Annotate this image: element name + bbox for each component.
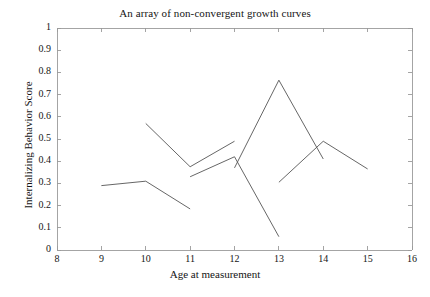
x-tick-label: 12 [224, 253, 246, 264]
y-tick-label: 0.4 [21, 154, 51, 165]
data-line-curve-4 [235, 80, 324, 168]
y-tick-label: 0.8 [21, 65, 51, 76]
y-tick-label: 1 [21, 21, 51, 32]
y-tick-label: 0.6 [21, 110, 51, 121]
x-tick-label: 8 [46, 253, 68, 264]
chart-figure: An array of non-convergent growth curves… [0, 0, 430, 297]
y-tick-label: 0.1 [21, 221, 51, 232]
data-line-curve-1 [101, 181, 190, 209]
data-series-group [101, 80, 367, 237]
data-line-curve-2 [146, 123, 235, 166]
y-tick-label: 0.3 [21, 176, 51, 187]
x-tick-label: 11 [179, 253, 201, 264]
x-tick-label: 13 [268, 253, 290, 264]
data-line-curve-5 [279, 141, 368, 182]
axes-frame [57, 28, 412, 250]
y-tick-label: 0.5 [21, 132, 51, 143]
x-tick-label: 14 [312, 253, 334, 264]
data-line-curve-3 [190, 157, 279, 237]
x-tick-label: 15 [357, 253, 379, 264]
y-tick-label: 0.9 [21, 43, 51, 54]
x-tick-label: 16 [401, 253, 423, 264]
axis-ticks [57, 28, 412, 250]
x-tick-label: 10 [135, 253, 157, 264]
y-tick-label: 0.7 [21, 88, 51, 99]
y-tick-label: 0.2 [21, 199, 51, 210]
x-tick-label: 9 [90, 253, 112, 264]
